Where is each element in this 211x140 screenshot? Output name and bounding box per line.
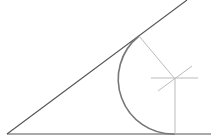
radius-to-upper-tangent	[139, 36, 175, 79]
tangent-arc-diagram	[0, 0, 211, 140]
upper-line	[7, 0, 187, 134]
